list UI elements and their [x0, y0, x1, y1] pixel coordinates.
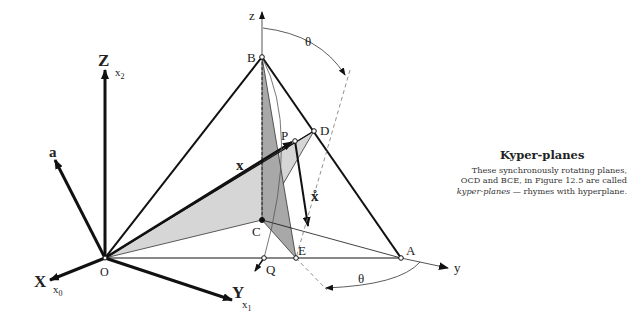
Y-axis-arrow [105, 258, 232, 300]
Z-label: Z [98, 51, 109, 70]
X-axis-arrow [50, 258, 105, 280]
a-vector [55, 160, 105, 258]
theta-bottom-label: θ [358, 271, 364, 286]
point-C-label: C [252, 224, 261, 239]
x0-label: x0 [53, 283, 63, 298]
sidebar-text: These synchronously rotating planes, OCD… [455, 165, 643, 196]
point-B-label: B [247, 50, 256, 65]
y-label: y [454, 260, 461, 275]
point-O-label: O [100, 265, 109, 279]
sidebar-title: Kyper-planes [455, 148, 643, 162]
rotated-axis-dashed-lower [296, 258, 327, 290]
y-axis [401, 258, 448, 268]
point-D-label: D [320, 123, 329, 138]
x2-label: x2 [115, 66, 125, 81]
theta-arc-bottom [326, 262, 420, 288]
rotated-axis-dashed [296, 70, 350, 258]
theta-top-label: θ [305, 34, 311, 49]
point-E-label: E [298, 243, 306, 258]
point-P-label: P [281, 128, 288, 143]
point-A-label: A [406, 243, 416, 258]
xdot-vector-label: x̊ [311, 188, 319, 204]
sidebar-note: Kyper-planes These synchronously rotatin… [455, 148, 643, 196]
X-label: X [34, 272, 47, 291]
x-vector-label: x [236, 157, 244, 173]
point-Q-label: Q [266, 262, 276, 277]
z-label: z [249, 8, 255, 23]
x1-label: x1 [242, 298, 252, 313]
a-label: a [49, 144, 57, 160]
theta-arc-top [263, 28, 345, 75]
xdot-vector [295, 141, 308, 226]
